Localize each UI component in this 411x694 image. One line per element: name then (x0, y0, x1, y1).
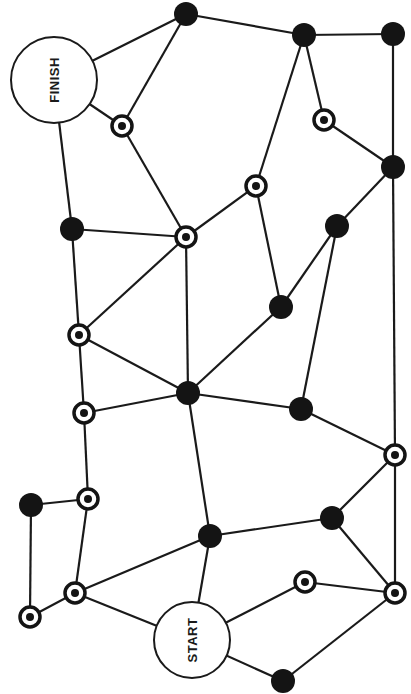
space-target-K[interactable] (69, 325, 89, 345)
space-black-C[interactable] (381, 22, 405, 46)
black-dot-icon (198, 524, 222, 548)
space-black-Q[interactable] (19, 493, 43, 517)
space-black-Y[interactable] (271, 669, 295, 693)
space-target-W[interactable] (295, 572, 315, 592)
black-dot-icon (271, 669, 295, 693)
black-dot-icon (320, 506, 344, 530)
path-connection-B-F (256, 35, 304, 186)
target-center-icon (182, 233, 190, 241)
black-dot-icon (269, 295, 293, 319)
space-target-F[interactable] (246, 176, 266, 196)
space-target-X[interactable] (385, 583, 405, 603)
target-center-icon (320, 116, 328, 124)
black-dot-icon (174, 2, 198, 26)
path-connection-L-N (188, 307, 281, 393)
space-black-N[interactable] (269, 295, 293, 319)
black-dot-icon (292, 23, 316, 47)
target-center-icon (84, 495, 92, 503)
path-connection-P-V (332, 455, 395, 518)
path-connection-A-B (186, 14, 304, 35)
space-black-I[interactable] (60, 217, 84, 241)
path-connection-F-J (186, 186, 256, 237)
space-black-A[interactable] (174, 2, 198, 26)
path-connection-B-D (304, 35, 324, 120)
path-connection-J-K (79, 237, 186, 335)
space-target-H[interactable] (112, 116, 132, 136)
path-connection-W-X (305, 582, 395, 593)
space-target-S[interactable] (65, 583, 85, 603)
path-connection-E-P (393, 167, 395, 455)
finish-label: FINISH (47, 57, 62, 103)
path-connection-X-Y (283, 593, 395, 681)
black-dot-icon (381, 22, 405, 46)
space-black-V[interactable] (320, 506, 344, 530)
target-center-icon (118, 122, 126, 130)
path-connection-E-G (337, 167, 393, 226)
target-center-icon (301, 578, 309, 586)
space-black-G[interactable] (325, 214, 349, 238)
finish-space[interactable]: FINISH (11, 37, 97, 123)
target-center-icon (80, 409, 88, 417)
path-connection-U-V (210, 518, 332, 536)
path-connection-F-N (256, 186, 281, 307)
space-target-D[interactable] (314, 110, 334, 130)
path-connection-R-S (75, 499, 88, 593)
path-connection-L-O (188, 393, 301, 409)
black-dot-icon (19, 493, 43, 517)
space-black-O[interactable] (289, 397, 313, 421)
space-black-B[interactable] (292, 23, 316, 47)
path-connection-K-L (79, 335, 188, 393)
path-connection-B-C (304, 34, 393, 35)
target-center-icon (252, 182, 260, 190)
target-center-icon (391, 589, 399, 597)
black-dot-icon (325, 214, 349, 238)
space-target-M[interactable] (74, 403, 94, 423)
path-connection-V-X (332, 518, 395, 593)
black-dot-icon (60, 217, 84, 241)
path-connection-L-M (84, 393, 188, 413)
black-dot-icon (381, 155, 405, 179)
space-black-E[interactable] (381, 155, 405, 179)
path-connection-H-J (122, 126, 186, 237)
start-label: START (185, 618, 200, 663)
target-center-icon (71, 589, 79, 597)
space-black-U[interactable] (198, 524, 222, 548)
path-connection-I-J (72, 229, 186, 237)
space-target-R[interactable] (78, 489, 98, 509)
target-center-icon (391, 451, 399, 459)
path-connection-M-R (84, 413, 88, 499)
path-connection-D-E (324, 120, 393, 167)
path-connection-S-U (75, 536, 210, 593)
black-dot-icon (289, 397, 313, 421)
target-center-icon (75, 331, 83, 339)
game-board: FINISHSTART (0, 0, 411, 694)
path-connection-L-U (188, 393, 210, 536)
path-connection-I-K (72, 229, 79, 335)
space-black-L[interactable] (176, 381, 200, 405)
path-connection-O-P (301, 409, 395, 455)
space-target-J[interactable] (176, 227, 196, 247)
target-center-icon (26, 613, 34, 621)
black-dot-icon (176, 381, 200, 405)
space-target-P[interactable] (385, 445, 405, 465)
start-space[interactable]: START (154, 602, 230, 678)
path-connection-J-L (186, 237, 188, 393)
connections-layer (30, 14, 395, 681)
path-connection-Q-T (30, 505, 31, 617)
space-target-T[interactable] (20, 607, 40, 627)
